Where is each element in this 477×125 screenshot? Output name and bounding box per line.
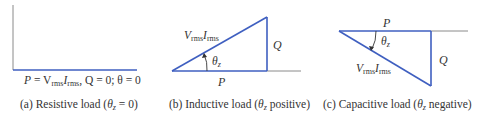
caption-a: (a) Resistive load (θz = 0): [20, 98, 138, 112]
apparent-power-label: VrmsIrms: [184, 29, 219, 43]
q-label: Q: [439, 53, 448, 67]
theta-z-label: θz: [381, 35, 391, 49]
caption-c: (c) Capacitive load (θz negative): [323, 98, 472, 112]
p-label: P: [217, 75, 226, 89]
power-triangles-diagram: P = VrmsIrms, Q = 0; θ = 0 VrmsIrms θz Q…: [0, 0, 477, 125]
apparent-power-label: VrmsIrms: [356, 62, 391, 76]
caption-b: (b) Inductive load (θz positive): [169, 98, 310, 112]
theta-z-label: θz: [212, 55, 222, 69]
p-label: P: [382, 16, 391, 30]
q-label: Q: [273, 38, 282, 52]
panel-b-inductive: VrmsIrms θz Q P: [172, 17, 301, 89]
panel-a-resistive: P = VrmsIrms, Q = 0; θ = 0: [13, 5, 141, 88]
angle-arc: [372, 31, 376, 49]
resistive-equation: P = VrmsIrms, Q = 0; θ = 0: [23, 74, 141, 88]
panel-c-capacitive: θz VrmsIrms Q P: [339, 16, 468, 86]
